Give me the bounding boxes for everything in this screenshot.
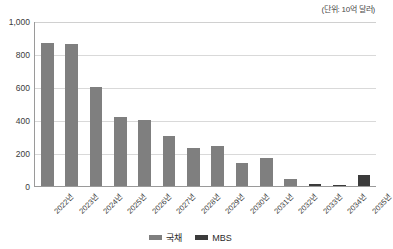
x-axis-tick-slot: 2022년 — [34, 189, 58, 231]
bar-stack[interactable] — [187, 148, 200, 186]
bar-slot[interactable] — [181, 22, 205, 186]
x-axis-tick-slot: 2025년 — [107, 189, 131, 231]
bar-segment-gov[interactable] — [211, 146, 224, 186]
bar-stack[interactable] — [163, 136, 176, 186]
bar-stack[interactable] — [333, 185, 346, 186]
x-axis-tick-slot: 2027년 — [156, 189, 180, 231]
bar-segment-gov[interactable] — [236, 163, 249, 186]
bar-slot[interactable] — [132, 22, 156, 186]
y-axis-tick-label: 200 — [16, 149, 30, 159]
x-axis-tick-slot: 2034년 — [327, 189, 351, 231]
bar-stack[interactable] — [260, 158, 273, 186]
bar-slot[interactable] — [35, 22, 59, 186]
bar-stack[interactable] — [65, 44, 78, 186]
bar-stack[interactable] — [358, 175, 371, 186]
x-axis-tick-slot: 2032년 — [278, 189, 302, 231]
y-axis-labels: 1,0008006004002000 — [0, 22, 30, 187]
y-axis-tick-label: 600 — [16, 83, 30, 93]
bar-slot[interactable] — [327, 22, 351, 186]
bar-stack[interactable] — [138, 120, 151, 186]
bar-stack[interactable] — [90, 87, 103, 186]
bar-segment-gov[interactable] — [114, 117, 127, 186]
bar-segment-mbs[interactable] — [333, 185, 346, 186]
chart-legend: 국채MBS — [0, 231, 381, 244]
x-axis-tick-slot: 2031년 — [254, 189, 278, 231]
y-axis-tick-label: 0 — [25, 182, 30, 192]
legend-swatch-gov — [149, 235, 162, 240]
bar-slot[interactable] — [254, 22, 278, 186]
bar-segment-gov[interactable] — [65, 44, 78, 186]
x-axis-tick-label: 2035년 — [369, 191, 393, 216]
legend-item-mbs[interactable]: MBS — [195, 233, 232, 243]
bar-segment-mbs[interactable] — [358, 175, 371, 186]
bar-slot[interactable] — [352, 22, 376, 186]
plot-area — [34, 22, 376, 187]
x-axis-tick-slot: 2029년 — [205, 189, 229, 231]
legend-label-mbs: MBS — [212, 233, 232, 243]
bar-segment-mbs[interactable] — [309, 184, 322, 186]
bar-slot[interactable] — [230, 22, 254, 186]
bar-stack[interactable] — [236, 163, 249, 186]
x-axis-labels: 2022년2023년2024년2025년2026년2027년2028년2029년… — [34, 189, 376, 231]
bar-slot[interactable] — [157, 22, 181, 186]
bar-slot[interactable] — [303, 22, 327, 186]
bar-stack[interactable] — [41, 43, 54, 186]
x-axis-tick-slot: 2035년 — [351, 189, 375, 231]
bar-segment-gov[interactable] — [187, 148, 200, 186]
bar-slot[interactable] — [59, 22, 83, 186]
bar-stack[interactable] — [114, 117, 127, 186]
y-axis-tick-label: 400 — [16, 116, 30, 126]
x-axis-tick-slot: 2023년 — [58, 189, 82, 231]
x-axis-tick-slot: 2024년 — [83, 189, 107, 231]
bar-segment-gov[interactable] — [41, 43, 54, 186]
bar-slot[interactable] — [84, 22, 108, 186]
bar-series-container — [35, 22, 376, 186]
bar-segment-gov[interactable] — [260, 158, 273, 186]
bar-stack[interactable] — [211, 146, 224, 186]
x-axis-tick-slot: 2030년 — [229, 189, 253, 231]
bar-stack[interactable] — [309, 184, 322, 186]
bar-stack[interactable] — [284, 179, 297, 186]
legend-item-gov[interactable]: 국채 — [149, 231, 182, 244]
legend-label-gov: 국채 — [166, 231, 182, 244]
x-axis-tick-slot: 2033년 — [303, 189, 327, 231]
bar-slot[interactable] — [108, 22, 132, 186]
x-axis-tick-slot: 2026년 — [132, 189, 156, 231]
bar-segment-gov[interactable] — [90, 87, 103, 186]
bar-segment-gov[interactable] — [284, 179, 297, 186]
legend-swatch-mbs — [195, 235, 208, 240]
bar-slot[interactable] — [279, 22, 303, 186]
unit-caption: (단위: 10억 달러) — [322, 3, 376, 14]
bar-slot[interactable] — [206, 22, 230, 186]
bar-segment-gov[interactable] — [163, 136, 176, 186]
x-axis-tick-slot: 2028년 — [181, 189, 205, 231]
y-axis-tick-label: 800 — [16, 50, 30, 60]
y-axis-tick-label: 1,000 — [9, 17, 30, 27]
bar-segment-gov[interactable] — [138, 120, 151, 186]
